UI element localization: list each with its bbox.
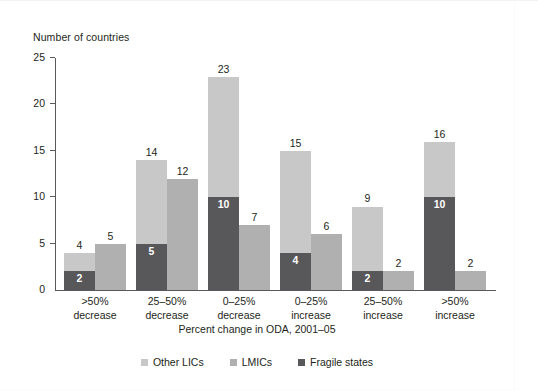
x-tick-label-line2: increase: [400, 309, 510, 323]
bar-segment-fragile-states[interactable]: [208, 197, 239, 290]
bar-group: 292: [352, 58, 414, 290]
bar-segment-other-lics[interactable]: [352, 207, 383, 272]
y-tick-label-5: 5: [0, 238, 45, 249]
bar-segment-other-lics[interactable]: [424, 142, 455, 198]
bar-segment-other-lics[interactable]: [280, 151, 311, 253]
legend-label-lmics: LMICs: [242, 356, 272, 368]
legend-swatch-icon-lmics: [230, 359, 237, 366]
bar-value-label-fragile: 2: [352, 273, 383, 284]
y-tick-label-25: 25: [0, 52, 45, 63]
bar-value-label-fragile: 5: [136, 246, 167, 257]
bar-lic-stacked[interactable]: 415: [280, 151, 311, 290]
bar-lic-stacked[interactable]: 1016: [424, 142, 455, 290]
y-tick-10: 10: [0, 191, 56, 202]
bar-lmics[interactable]: 12: [167, 179, 198, 290]
bar-value-label-lic-total: 14: [136, 147, 167, 158]
bar-value-label-lmics: 2: [455, 258, 486, 269]
bar-segment-fragile-states[interactable]: [424, 197, 455, 290]
bar-lmics[interactable]: 6: [311, 234, 342, 290]
bar-value-label-lic-total: 9: [352, 193, 383, 204]
bar-value-label-fragile: 10: [208, 199, 239, 210]
bar-segment-lmics[interactable]: [167, 179, 198, 290]
bar-segment-other-lics[interactable]: [64, 253, 95, 272]
y-tick-0: 0: [0, 284, 56, 295]
bar-value-label-lmics: 12: [167, 166, 198, 177]
plot-area: 2455141210237415629210162: [56, 58, 496, 290]
bar-lmics[interactable]: 5: [95, 244, 126, 290]
chart-legend: Other LICs LMICs Fragile states: [0, 356, 514, 368]
bar-group: 10237: [208, 58, 270, 290]
bar-value-label-lic-total: 15: [280, 138, 311, 149]
legend-swatch-icon-other-lics: [141, 359, 148, 366]
bar-lmics[interactable]: 2: [455, 271, 486, 290]
y-tick-15: 15: [0, 145, 56, 156]
bar-value-label-lic-total: 23: [208, 64, 239, 75]
bar-value-label-lmics: 5: [95, 231, 126, 242]
legend-swatch-icon-fragile-states: [298, 359, 305, 366]
bar-lic-stacked[interactable]: 1023: [208, 77, 239, 290]
bar-group: 245: [64, 58, 126, 290]
bar-segment-other-lics[interactable]: [136, 160, 167, 244]
legend-item-fragile-states[interactable]: Fragile states: [298, 356, 373, 368]
y-tick-label-20: 20: [0, 98, 45, 109]
legend-label-fragile-states: Fragile states: [310, 356, 373, 368]
y-tick-5: 5: [0, 238, 56, 249]
x-axis-title: Percent change in ODA, 2001–05: [0, 323, 514, 335]
bar-value-label-lmics: 7: [239, 212, 270, 223]
legend-label-other-lics: Other LICs: [153, 356, 204, 368]
bar-segment-lmics[interactable]: [239, 225, 270, 290]
legend-item-lmics[interactable]: LMICs: [230, 356, 272, 368]
bar-value-label-lic-total: 4: [64, 240, 95, 251]
y-tick-20: 20: [0, 98, 56, 109]
bar-value-label-lmics: 6: [311, 221, 342, 232]
bar-value-label-fragile: 2: [64, 273, 95, 284]
bar-segment-lmics[interactable]: [455, 271, 486, 290]
y-tick-25: 25: [0, 52, 56, 63]
legend-item-other-lics[interactable]: Other LICs: [141, 356, 204, 368]
bar-group: 4156: [280, 58, 342, 290]
y-tick-label-10: 10: [0, 191, 45, 202]
bar-value-label-lmics: 2: [383, 258, 414, 269]
bar-value-label-fragile: 10: [424, 199, 455, 210]
bar-lmics[interactable]: 7: [239, 225, 270, 290]
chart-page: Number of countries 25 20 15 10 5 0 2455…: [0, 0, 538, 391]
bar-group: 10162: [424, 58, 486, 290]
bar-lmics[interactable]: 2: [383, 271, 414, 290]
bar-segment-other-lics[interactable]: [208, 77, 239, 198]
bar-lic-stacked[interactable]: 29: [352, 206, 383, 290]
bar-group: 51412: [136, 58, 198, 290]
x-axis-line: [55, 290, 496, 291]
bar-lic-stacked[interactable]: 24: [64, 253, 95, 290]
bar-segment-lmics[interactable]: [95, 244, 126, 290]
x-tick-label-line1: >50%: [400, 295, 510, 309]
x-tick-label: >50%increase: [400, 295, 510, 322]
bar-value-label-lic-total: 16: [424, 129, 455, 140]
bar-value-label-fragile: 4: [280, 255, 311, 266]
bar-segment-lmics[interactable]: [311, 234, 342, 290]
y-tick-label-0: 0: [0, 284, 45, 295]
y-tick-label-15: 15: [0, 145, 45, 156]
bar-segment-lmics[interactable]: [383, 271, 414, 290]
bar-lic-stacked[interactable]: 514: [136, 160, 167, 290]
